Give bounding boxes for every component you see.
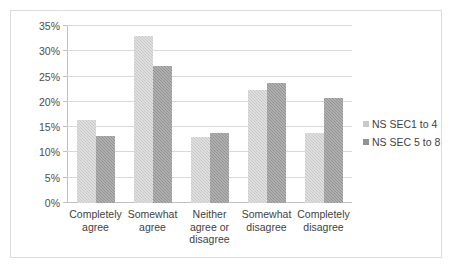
bar-group xyxy=(191,26,229,203)
category-label: Completelydisagree xyxy=(287,208,361,233)
bar[interactable] xyxy=(191,137,210,203)
chart-legend: NS SEC1 to 4NS SEC 5 to 8 xyxy=(363,115,443,151)
bar[interactable] xyxy=(324,98,343,203)
legend-label: NS SEC 5 to 8 xyxy=(372,136,440,148)
y-axis-tick-label: 30% xyxy=(39,45,60,57)
y-axis-tick-label: 5% xyxy=(45,172,60,184)
y-axis-tick-label: 15% xyxy=(39,121,60,133)
category-label-line: Completely xyxy=(287,208,361,221)
bar[interactable] xyxy=(77,120,96,203)
y-axis-tick xyxy=(63,50,67,51)
bar-group xyxy=(248,26,286,203)
y-axis-tick-label: 35% xyxy=(39,20,60,32)
y-axis-tick xyxy=(63,101,67,102)
category-label-line: disagree xyxy=(287,221,361,234)
plot-area: 0%5%10%15%20%25%30%35% CompletelyagreeSo… xyxy=(67,26,352,203)
bar[interactable] xyxy=(134,36,153,203)
y-axis-tick xyxy=(63,202,67,203)
bar[interactable] xyxy=(305,133,324,203)
bar[interactable] xyxy=(153,66,172,203)
bar[interactable] xyxy=(248,90,267,203)
legend-item[interactable]: NS SEC 5 to 8 xyxy=(363,133,443,151)
bar-group xyxy=(134,26,172,203)
category-label-line: disagree xyxy=(173,233,247,246)
y-axis-tick xyxy=(63,76,67,77)
legend-swatch-icon xyxy=(363,139,369,145)
y-axis-tick xyxy=(63,177,67,178)
y-axis-tick xyxy=(63,25,67,26)
y-axis-tick-label: 20% xyxy=(39,96,60,108)
y-axis-tick xyxy=(63,126,67,127)
bar-group xyxy=(77,26,115,203)
legend-item[interactable]: NS SEC1 to 4 xyxy=(363,115,443,133)
y-axis-tick-label: 10% xyxy=(39,146,60,158)
bar-group xyxy=(305,26,343,203)
legend-label: NS SEC1 to 4 xyxy=(372,118,437,130)
y-axis-tick-label: 25% xyxy=(39,71,60,83)
bar[interactable] xyxy=(267,83,286,203)
legend-swatch-icon xyxy=(363,121,369,127)
y-axis-tick xyxy=(63,151,67,152)
bar[interactable] xyxy=(96,136,115,203)
chart-frame: 0%5%10%15%20%25%30%35% CompletelyagreeSo… xyxy=(10,10,442,258)
bar[interactable] xyxy=(210,133,229,203)
